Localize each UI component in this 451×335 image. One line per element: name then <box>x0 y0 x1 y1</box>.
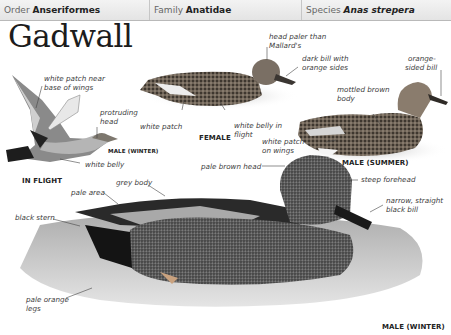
label-white-patch-female: white patch <box>140 123 182 131</box>
label-pale-area: pale area <box>71 189 105 197</box>
label-grey-body: grey body <box>116 179 152 187</box>
label-head: head <box>100 118 118 126</box>
label-black-bill: black bill <box>386 206 418 214</box>
caption-female: FEMALE <box>199 134 231 142</box>
label-mallards: Mallard's <box>269 42 301 50</box>
caption-in-flight-male-winter: MALE (WINTER) <box>108 148 159 154</box>
label-base-of-wings: base of wings <box>44 84 93 92</box>
label-body: body <box>337 95 355 103</box>
label-narrow-straight: narrow, straight <box>386 197 443 205</box>
label-orange: orange- <box>408 55 436 63</box>
label-protruding: protruding <box>100 109 138 117</box>
male-summer-duck <box>292 82 448 164</box>
label-head-paler-than: head paler than <box>269 33 326 41</box>
label-dark-bill-with: dark bill with <box>302 55 348 63</box>
label-pale-brown-head: pale brown head <box>201 163 261 171</box>
label-orange-sides: orange sides <box>302 64 348 72</box>
label-legs: legs <box>26 305 41 313</box>
label-pale-orange: pale orange <box>26 296 69 304</box>
label-mottled-brown: mottled brown <box>337 86 390 94</box>
label-black-stern: black stern <box>15 214 55 222</box>
label-white-belly-in: white belly in <box>234 122 282 130</box>
label-white-patch-summer: white patch <box>262 138 304 146</box>
label-white-belly: white belly <box>85 161 124 169</box>
label-sided-bill: sided bill <box>405 64 437 72</box>
label-on-wings: on wings <box>262 147 294 155</box>
female-duck <box>140 59 298 110</box>
caption-male-summer: MALE (SUMMER) <box>342 159 409 167</box>
caption-male-winter: MALE (WINTER) <box>382 323 445 331</box>
label-steep-forehead: steep forehead <box>361 176 416 184</box>
caption-in-flight: IN FLIGHT <box>22 177 62 185</box>
label-flight: flight <box>234 131 253 139</box>
label-white-patch-near: white patch near <box>44 75 105 83</box>
